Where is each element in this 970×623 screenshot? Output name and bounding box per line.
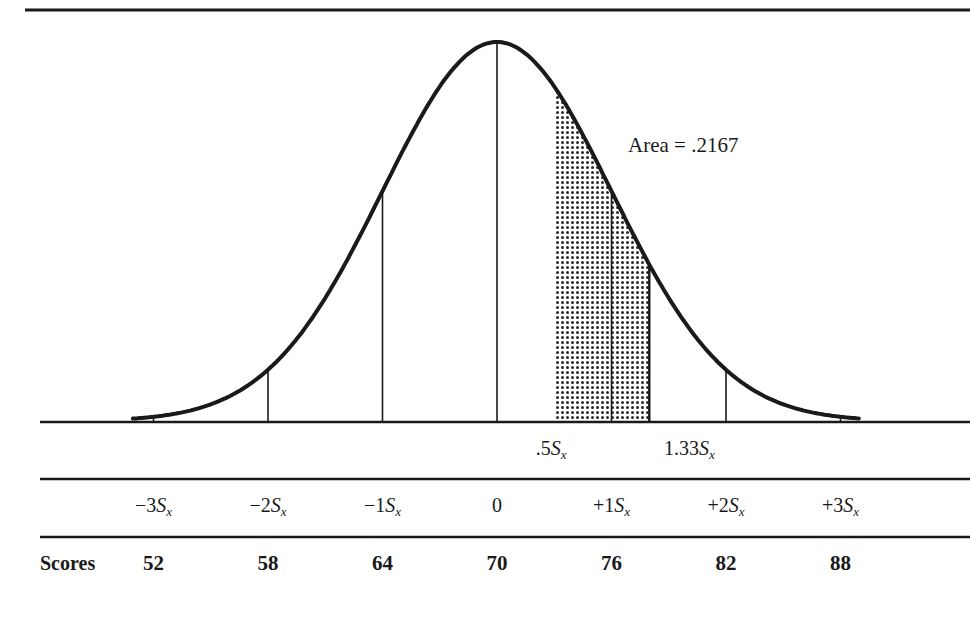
sd-label: +1Sx [593,494,630,520]
score-value: 58 [258,551,279,576]
score-value: 82 [716,551,737,576]
score-value: 70 [487,551,508,576]
sd-label: −2Sx [249,494,286,520]
scores-row-label: Scores [40,552,95,575]
sd-ordinates [154,42,841,421]
score-value: 52 [143,551,164,576]
normal-curve [133,42,859,419]
sd-label: 0 [492,494,502,517]
score-value: 76 [601,551,622,576]
sd-label: −3Sx [135,494,172,520]
area-annotation: Area = .2167 [628,133,738,158]
sd-label: −1Sx [364,494,401,520]
sd-label: +3Sx [822,494,859,520]
sd-label: +2Sx [707,494,744,520]
score-value: 88 [830,551,851,576]
normal-curve-diagram [0,0,970,623]
shade-boundary-label: 1.33Sx [664,437,715,463]
score-value: 64 [372,551,393,576]
shade-boundary-label: .5Sx [536,437,567,463]
